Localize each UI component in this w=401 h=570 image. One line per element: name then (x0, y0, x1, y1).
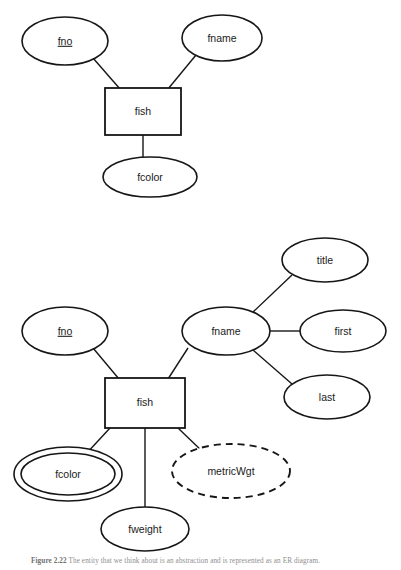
connector-fname-last (253, 350, 292, 384)
entity-fish[interactable]: fish (105, 88, 181, 135)
diagram-extended-fish: fno fname title first last (14, 238, 386, 551)
attribute-first[interactable]: first (300, 310, 386, 352)
figure-caption: Figure 2.22 The entity that we think abo… (31, 557, 386, 566)
attribute-fname[interactable]: fname (182, 307, 270, 355)
attribute-label: title (317, 254, 334, 266)
attribute-fweight[interactable]: fweight (101, 507, 189, 551)
attribute-label: fcolor (137, 171, 163, 183)
attribute-title[interactable]: title (282, 238, 368, 282)
figure-caption-label: Figure 2.22 (31, 557, 67, 565)
attribute-label: last (319, 391, 335, 403)
attribute-last[interactable]: last (284, 375, 370, 419)
attribute-label: fname (211, 325, 240, 337)
attribute-label: fcolor (55, 468, 81, 480)
attribute-label: fname (207, 32, 236, 44)
attribute-label: fno (58, 35, 73, 47)
attribute-fname[interactable]: fname (182, 15, 262, 61)
connector-fish-fname (168, 55, 196, 89)
connector-fname-title (252, 275, 292, 313)
attribute-fcolor[interactable]: fcolor (103, 157, 197, 197)
attribute-fno[interactable]: fno (22, 17, 108, 65)
er-diagram-canvas: fno fname fish fcolor (0, 0, 401, 570)
diagram-simple-fish: fno fname fish fcolor (22, 15, 262, 197)
attribute-label: metricWgt (207, 465, 254, 477)
attribute-label: fweight (128, 523, 161, 535)
entity-label: fish (137, 396, 154, 408)
entity-label: fish (135, 105, 152, 117)
er-figure: fno fname fish fcolor (0, 0, 401, 570)
attribute-label: fno (58, 325, 73, 337)
attribute-label: first (335, 325, 352, 337)
attribute-fcolor[interactable]: fcolor (14, 447, 122, 501)
connector-fish-fname (168, 348, 188, 379)
connector-fish-fno (93, 58, 120, 89)
figure-caption-body: The entity that we think about is an abs… (69, 557, 321, 565)
entity-fish[interactable]: fish (105, 378, 185, 428)
attribute-metricwgt[interactable]: metricWgt (172, 444, 290, 498)
attribute-fno[interactable]: fno (22, 307, 108, 355)
connector-fish-fno (93, 348, 119, 379)
